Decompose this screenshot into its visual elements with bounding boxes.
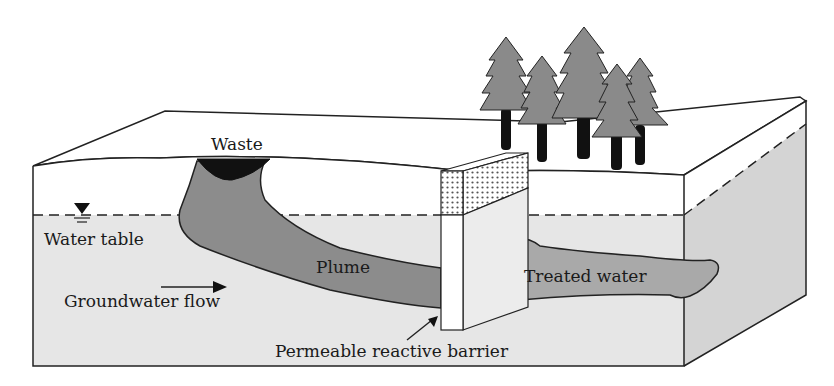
label-barrier: Permeable reactive barrier — [275, 341, 509, 361]
label-treated-water: Treated water — [524, 266, 647, 286]
label-water-table: Water table — [44, 229, 144, 249]
prb-diagram: Waste Water table Groundwater flow Plume… — [0, 0, 834, 386]
label-groundwater-flow: Groundwater flow — [64, 291, 220, 311]
permeable-reactive-barrier — [441, 153, 528, 330]
barrier-front-lower — [441, 215, 463, 330]
label-plume: Plume — [316, 257, 370, 277]
barrier-front-stipple — [441, 171, 463, 215]
label-waste: Waste — [211, 134, 263, 154]
